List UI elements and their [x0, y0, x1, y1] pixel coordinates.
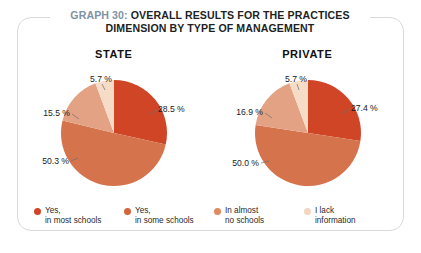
- title-line-1: GRAPH 30: OVERALL RESULTS FOR THE PRACTI…: [56, 9, 364, 22]
- chart-legend: Yes, in most schools Yes, in some school…: [34, 206, 394, 234]
- figure-title: GRAPH 30: OVERALL RESULTS FOR THE PRACTI…: [50, 8, 370, 37]
- legend-swatch-icon-3: [304, 208, 311, 215]
- pie-label-state-3: 5.7 %: [90, 74, 112, 84]
- title-main-1: OVERALL RESULTS FOR THE PRACTICES: [131, 9, 350, 21]
- chart-private-title: PRIVATE: [211, 48, 405, 60]
- charts-row: STATE 28.5 % 50.: [17, 48, 404, 198]
- legend-item-0: Yes, in most schools: [34, 206, 124, 234]
- pie-label-state-2: 15.5 %: [43, 108, 70, 118]
- legend-swatch-icon-1: [124, 208, 131, 215]
- chart-private: PRIVATE 27.4 % 5: [211, 48, 405, 198]
- pie-label-private-0: 27.4 %: [351, 103, 378, 113]
- legend-label-1: Yes, in some schools: [135, 206, 194, 226]
- legend-label-3: I lack information: [315, 206, 356, 226]
- pie-label-state-0: 28.5 %: [158, 104, 185, 114]
- pie-svg-state: 28.5 % 50.3 % 15.5 % 5.7 %: [17, 66, 211, 196]
- legend-item-3: I lack information: [304, 206, 394, 234]
- figure-container: GRAPH 30: OVERALL RESULTS FOR THE PRACTI…: [0, 0, 421, 253]
- legend-swatch-icon-0: [34, 208, 41, 215]
- pie-label-private-3: 5.7 %: [285, 74, 307, 84]
- title-line-2: DIMENSION BY TYPE OF MANAGEMENT: [56, 22, 364, 35]
- legend-item-1: Yes, in some schools: [124, 206, 214, 234]
- graph-number: GRAPH 30:: [70, 9, 127, 21]
- chart-state: STATE 28.5 % 50.: [17, 48, 211, 198]
- legend-swatch-icon-2: [214, 208, 221, 215]
- chart-state-plot: 28.5 % 50.3 % 15.5 % 5.7 %: [17, 66, 211, 196]
- chart-state-title: STATE: [17, 48, 211, 60]
- pie-slices-state: [61, 80, 167, 186]
- legend-label-2: In almost no schools: [225, 206, 264, 226]
- pie-slices-private: [255, 80, 361, 186]
- legend-item-2: In almost no schools: [214, 206, 304, 234]
- pie-label-state-1: 50.3 %: [42, 156, 69, 166]
- legend-label-0: Yes, in most schools: [45, 206, 101, 226]
- pie-label-private-2: 16.9 %: [236, 107, 263, 117]
- pie-svg-private: 27.4 % 50.0 % 16.9 % 5.7 %: [211, 66, 405, 196]
- chart-private-plot: 27.4 % 50.0 % 16.9 % 5.7 %: [211, 66, 405, 196]
- pie-label-private-1: 50.0 %: [232, 158, 259, 168]
